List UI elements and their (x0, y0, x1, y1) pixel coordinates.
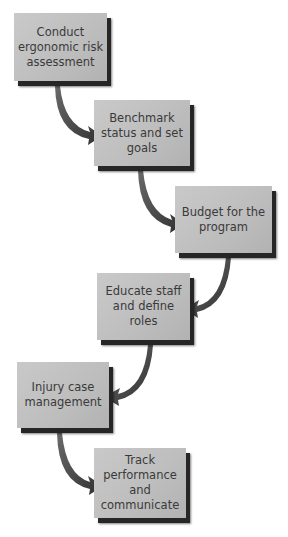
step-4-box: Educate staff and define roles (97, 273, 190, 340)
step-5-box: Injury case management (17, 362, 109, 428)
step-6-label: Track performance and communicate (97, 453, 183, 513)
arrow-3-to-4 (184, 257, 231, 318)
arrow-4-to-5 (104, 345, 153, 406)
step-4-label: Educate staff and define roles (100, 284, 187, 329)
step-3-box: Budget for the program (175, 186, 272, 253)
step-2-box: Benchmark status and set goals (94, 100, 190, 166)
step-1-label: Conduct ergonomic risk assessment (17, 25, 104, 70)
step-1-box: Conduct ergonomic risk assessment (14, 13, 107, 81)
step-5-label: Injury case management (20, 380, 106, 410)
step-3-label: Budget for the program (178, 205, 269, 235)
step-2-label: Benchmark status and set goals (97, 111, 187, 156)
step-6-box: Track performance and communicate (94, 448, 186, 518)
